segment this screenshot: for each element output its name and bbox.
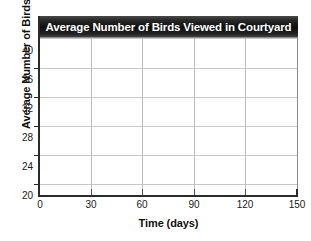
gridline-horizontal — [39, 97, 298, 98]
chart-title-bar: Average Number of Birds Viewed in Courty… — [39, 16, 298, 38]
y-tick-mark — [34, 68, 39, 69]
y-axis-line — [38, 16, 40, 197]
x-tick-mark — [142, 189, 143, 195]
y-tick-label: 24 — [11, 161, 33, 173]
y-tick-label: 36 — [11, 74, 33, 86]
plot-area — [39, 38, 298, 196]
x-tick-mark — [194, 189, 195, 195]
x-tick-label: 120 — [230, 199, 260, 211]
x-tick-label: 150 — [282, 199, 311, 211]
y-tick-mark — [34, 97, 39, 98]
y-tick-mark — [34, 155, 39, 156]
gridline-horizontal — [39, 184, 298, 185]
x-tick-mark — [245, 189, 246, 195]
x-tick-mark — [91, 189, 92, 195]
y-tick-label: 28 — [11, 132, 33, 144]
gridline-vertical — [142, 38, 143, 196]
y-axis-title: Average Number of Birds — [19, 0, 33, 144]
gridline-horizontal — [39, 126, 298, 127]
gridline-horizontal — [39, 68, 298, 69]
y-tick-mark — [34, 184, 39, 185]
x-axis-endcap — [296, 189, 298, 197]
plot-top-border — [38, 37, 298, 38]
gridline-horizontal — [39, 38, 298, 39]
gridline-vertical — [194, 38, 195, 196]
x-tick-label: 60 — [127, 199, 157, 211]
plot-right-border — [297, 38, 298, 196]
gridline-vertical — [91, 38, 92, 196]
gridline-horizontal — [39, 155, 298, 156]
gridline-vertical — [245, 38, 246, 196]
chart-title: Average Number of Birds Viewed in Courty… — [39, 16, 298, 38]
chart-figure: Average Number of Birds Average Number o… — [0, 0, 311, 241]
x-tick-label: 0 — [25, 199, 55, 211]
y-tick-label: 40 — [11, 45, 33, 57]
x-tick-label: 30 — [76, 199, 106, 211]
x-axis-title: Time (days) — [39, 216, 298, 230]
y-tick-label: 32 — [11, 103, 33, 115]
x-tick-label: 90 — [179, 199, 209, 211]
x-axis-line — [38, 195, 298, 197]
y-tick-mark — [34, 126, 39, 127]
